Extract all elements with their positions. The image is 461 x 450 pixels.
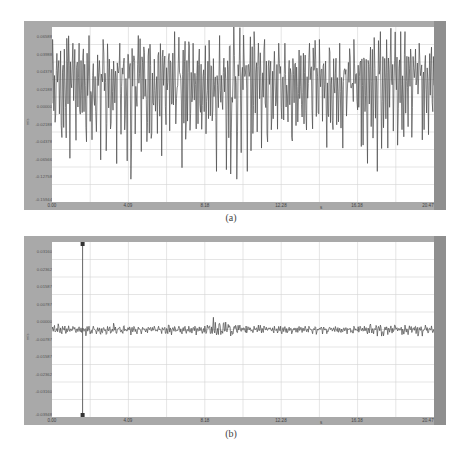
- x-tick-label: 20.47: [422, 418, 433, 423]
- y-tick-label: -0.02362: [26, 372, 52, 377]
- panel-right-bar: [434, 21, 446, 210]
- y-tick-label: -0.12758: [26, 174, 52, 179]
- x-tick-label: 0.00: [48, 203, 57, 208]
- plot-area-b: [52, 242, 434, 417]
- x-tick-label: 4.09: [124, 418, 133, 423]
- x-axis-unit: s: [320, 420, 322, 425]
- y-tick-label: 0.00000: [26, 319, 52, 324]
- y-tick-label: 0.03160: [26, 249, 52, 254]
- y-tick-label: 0.00787: [26, 302, 52, 307]
- x-tick-label: 16.38: [351, 203, 362, 208]
- y-tick-label: 0.02188: [26, 87, 52, 92]
- y-tick-label: -0.03160: [26, 389, 52, 394]
- y-tick-label: -0.03948: [26, 412, 52, 417]
- y-tick-label: -0.04378: [26, 139, 52, 144]
- x-tick-label: 20.47: [422, 203, 433, 208]
- x-tick-label: 12.28: [275, 418, 286, 423]
- signal-plot-a: [52, 27, 434, 202]
- y-tick-label: 0.06588: [26, 34, 52, 39]
- x-tick-label: 8.18: [201, 418, 210, 423]
- y-tick-label: 0.01587: [26, 284, 52, 289]
- panel-right-bar: [434, 236, 446, 425]
- y-tick-label: -0.00787: [26, 337, 52, 342]
- cursor-handle[interactable]: [81, 242, 85, 246]
- y-tick-label: 0.02362: [26, 267, 52, 272]
- plot-area-a: [52, 27, 434, 202]
- x-tick-label: 4.09: [124, 203, 133, 208]
- cursor-handle[interactable]: [81, 413, 85, 417]
- caption-b: (b): [225, 428, 237, 439]
- y-tick-label: 0.00000: [26, 104, 52, 109]
- y-tick-label: -0.15944: [26, 197, 52, 202]
- chart-panel-b: m/s 0.03160 0.02362 0.01587 0.00787 0.00…: [24, 236, 446, 425]
- y-tick-label: -0.01587: [26, 354, 52, 359]
- x-tick-label: 0.00: [48, 418, 57, 423]
- y-tick-label: 0.03988: [26, 52, 52, 57]
- y-tick-label: -0.06566: [26, 157, 52, 162]
- x-tick-label: 16.38: [351, 418, 362, 423]
- y-tick-label: 0.04378: [26, 69, 52, 74]
- caption-a: (a): [225, 212, 236, 223]
- signal-plot-b: [52, 242, 434, 417]
- y-tick-label: -0.02188: [26, 122, 52, 127]
- x-tick-label: 8.18: [201, 203, 210, 208]
- x-axis-unit: s: [320, 205, 322, 210]
- x-tick-label: 12.28: [275, 203, 286, 208]
- chart-panel-a: m/s 0.06588 0.03988 0.04378 0.02188 0.00…: [24, 21, 446, 210]
